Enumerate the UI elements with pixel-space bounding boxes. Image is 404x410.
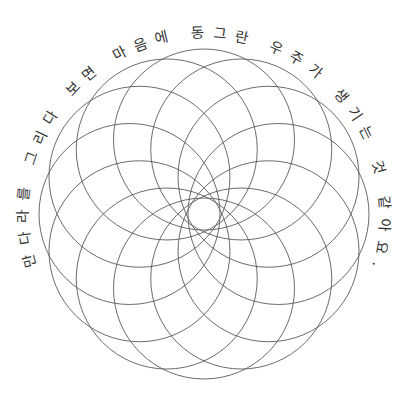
mandala-circle bbox=[188, 124, 369, 305]
mandala-circle bbox=[39, 124, 220, 305]
mandala-circle bbox=[76, 59, 257, 240]
mandala-circle bbox=[178, 161, 359, 342]
mandala-circle bbox=[151, 59, 332, 240]
mandala-circle bbox=[114, 198, 295, 379]
mandala-rings bbox=[39, 49, 369, 379]
mandala-circle bbox=[114, 49, 295, 230]
mandala-circle bbox=[76, 188, 257, 369]
mandala-canvas: 만다라를 그리다 보면 마음에 동그란 우주가 생기는 것 같아요. bbox=[0, 0, 404, 410]
curved-caption: 만다라를 그리다 보면 마음에 동그란 우주가 생기는 것 같아요. bbox=[15, 25, 393, 270]
mandala-circle bbox=[151, 188, 332, 369]
mandala-circle bbox=[178, 86, 359, 267]
caption-text: 만다라를 그리다 보면 마음에 동그란 우주가 생기는 것 같아요. bbox=[15, 25, 393, 270]
mandala-circle bbox=[49, 161, 230, 342]
mandala-circle bbox=[49, 86, 230, 267]
mandala-illustration: 만다라를 그리다 보면 마음에 동그란 우주가 생기는 것 같아요. bbox=[0, 0, 404, 410]
